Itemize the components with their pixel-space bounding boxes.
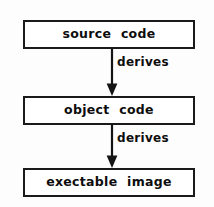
derivation-flow-diagram: source code derives object code derives … [0,0,214,207]
node-object-code[interactable]: object code [23,96,195,125]
node-source-code[interactable]: source code [23,20,195,49]
edge-label-source-to-object: derives [117,56,169,68]
node-source-code-label: source code [62,28,155,41]
node-object-code-label: object code [64,104,154,117]
node-exectable-image-label: exectable image [46,176,172,189]
node-exectable-image[interactable]: exectable image [23,168,195,197]
edge-label-object-to-exec: derives [117,132,169,144]
